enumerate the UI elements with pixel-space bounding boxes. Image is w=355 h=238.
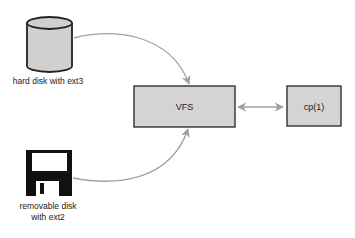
vfs-label: VFS — [176, 102, 194, 112]
arrow-removable-disk-to-vfs — [73, 129, 188, 181]
removable-disk-label-line1: removable disk — [19, 201, 77, 211]
arrow-hard-disk-to-vfs — [74, 34, 189, 84]
cp-label: cp(1) — [304, 102, 325, 112]
diagram-canvas: hard disk with ext3 removable disk with … — [0, 0, 355, 238]
removable-disk-label-line2: with ext2 — [30, 212, 65, 222]
hard-disk-label: hard disk with ext3 — [13, 76, 84, 86]
floppy-disk-icon — [26, 150, 72, 196]
cylinder-disk-icon — [27, 17, 72, 72]
